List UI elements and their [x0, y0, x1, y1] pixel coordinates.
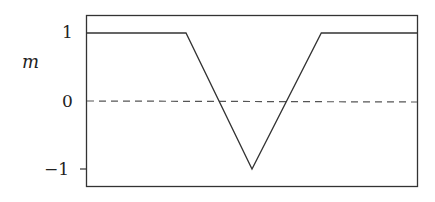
- y-tick-label-minus-1: −1: [44, 159, 69, 179]
- chart: 1 0 −1 m: [0, 0, 435, 202]
- y-axis-label: m: [22, 51, 39, 72]
- y-tick-label-1: 1: [62, 22, 73, 42]
- y-tick-label-0: 0: [62, 91, 73, 111]
- zero-reference-line: [87, 101, 417, 102]
